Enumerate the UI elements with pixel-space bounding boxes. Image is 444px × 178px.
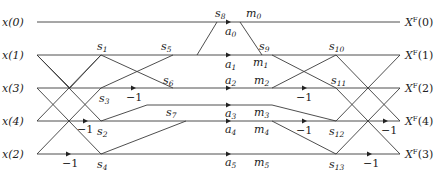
product-m5: m5 bbox=[254, 156, 269, 170]
node-s3: s3 bbox=[99, 92, 110, 106]
arrow-icon bbox=[226, 20, 231, 25]
arrow-icon bbox=[66, 152, 71, 157]
signal-flow-diagram: x(0) x(1) x(3) x(4) x(2) bbox=[0, 0, 444, 178]
input-label-x2: x(2) bbox=[2, 148, 24, 161]
input-label-x4: x(4) bbox=[2, 115, 24, 128]
arrow-icon bbox=[367, 152, 372, 157]
product-m0: m0 bbox=[246, 7, 261, 21]
node-s1: s1 bbox=[97, 40, 107, 54]
node-s8: s8 bbox=[215, 7, 226, 21]
arrow-icon bbox=[383, 119, 388, 124]
gain-label: −1 bbox=[296, 91, 312, 104]
multiplier-a0: a0 bbox=[225, 25, 237, 39]
node-s11: s11 bbox=[331, 74, 346, 88]
node-s7: s7 bbox=[166, 106, 177, 120]
product-m1: m1 bbox=[253, 56, 268, 70]
output-label-xf0: XF(0) bbox=[404, 16, 433, 29]
multiplier-a5: a5 bbox=[225, 156, 237, 170]
node-s2: s2 bbox=[97, 125, 108, 139]
node-s6: s6 bbox=[163, 74, 174, 88]
multiplier-a2: a2 bbox=[225, 74, 237, 88]
arrow-icon bbox=[302, 86, 307, 91]
arrow-icon bbox=[226, 53, 231, 58]
gain-label: −1 bbox=[296, 124, 312, 137]
product-m2: m2 bbox=[254, 74, 269, 88]
gain-label: −1 bbox=[126, 91, 142, 104]
multiplier-a4: a4 bbox=[225, 123, 237, 137]
gain-label: −1 bbox=[77, 123, 93, 136]
gain-label: −1 bbox=[62, 157, 78, 170]
node-s10: s10 bbox=[329, 40, 344, 54]
output-label-xf2: XF(2) bbox=[404, 82, 433, 95]
product-m4: m4 bbox=[254, 123, 269, 137]
node-s13: s13 bbox=[329, 158, 344, 172]
node-s4: s4 bbox=[97, 158, 108, 172]
output-label-xf4: XF(4) bbox=[404, 115, 433, 128]
gain-label: −1 bbox=[363, 157, 379, 170]
node-s9: s9 bbox=[259, 40, 270, 54]
input-label-x1: x(1) bbox=[2, 49, 24, 62]
arrow-icon bbox=[131, 86, 136, 91]
output-label-xf1: XF(1) bbox=[404, 49, 433, 62]
output-label-xf3: XF(3) bbox=[404, 148, 433, 161]
arrow-icon bbox=[302, 119, 307, 124]
input-label-x3: x(3) bbox=[2, 82, 24, 95]
gain-label: −1 bbox=[381, 124, 397, 137]
multiplier-a3: a3 bbox=[225, 107, 237, 121]
node-s12: s12 bbox=[329, 125, 344, 139]
multiplier-a1: a1 bbox=[225, 58, 236, 72]
product-m3: m3 bbox=[254, 106, 269, 120]
node-s5: s5 bbox=[161, 40, 172, 54]
input-label-x0: x(0) bbox=[2, 16, 24, 29]
